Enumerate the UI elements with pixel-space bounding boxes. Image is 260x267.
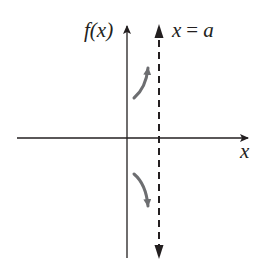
lower-curve-branch [134, 174, 148, 206]
asymptote-label-eq: = [186, 18, 198, 42]
asymptote-label-const: a [203, 18, 214, 42]
asymptote-line [155, 24, 164, 259]
asymptote-down-arrow-icon [155, 245, 164, 259]
upper-curve-branch [134, 68, 148, 98]
asymptote-label: x=a [171, 18, 214, 42]
vertical-asymptote-diagram: f(x) x x=a [0, 0, 260, 267]
asymptote-up-arrow-icon [155, 24, 164, 38]
diagram-svg: f(x) x x=a [0, 0, 260, 267]
asymptote-label-var: x [171, 18, 182, 42]
y-axis-label: f(x) [84, 18, 113, 42]
x-axis-label: x [239, 139, 250, 163]
